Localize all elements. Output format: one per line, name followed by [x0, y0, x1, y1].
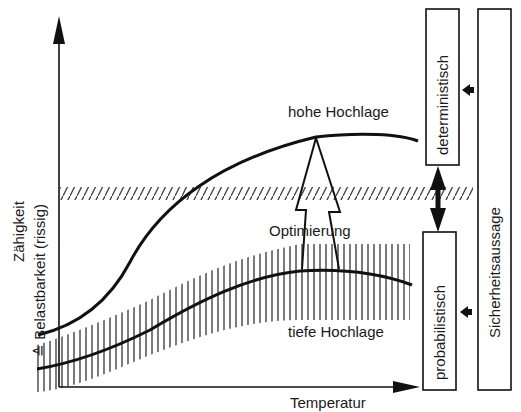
- optimization-arrow-icon: [296, 138, 340, 269]
- box-safety-statement-label: Sicherheitsaussage: [486, 207, 503, 338]
- label-low-upper-shelf: tiefe Hochlage: [288, 323, 384, 340]
- label-optimization: Optimierung: [269, 222, 351, 239]
- hatched-band-upper: [60, 187, 473, 200]
- x-axis: [59, 381, 420, 393]
- arrow-left-icon-upper: [462, 84, 470, 96]
- y-axis-label-line2: ≙ Belastbarkeit (rissig): [31, 204, 48, 357]
- y-axis-label-line1: Zähigkeit: [10, 200, 27, 262]
- diagram-canvas: Zähigkeit ≙ Belastbarkeit (rissig) Tempe…: [0, 0, 521, 412]
- box-probabilistic-label: probabilistisch: [431, 285, 448, 380]
- label-high-upper-shelf: hohe Hochlage: [288, 103, 389, 120]
- hatched-band-lower: [38, 230, 410, 395]
- box-deterministic-label: deterministisch: [434, 55, 451, 155]
- x-axis-label: Temperatur: [290, 394, 366, 411]
- curve-high-upper-shelf: [38, 134, 418, 335]
- arrow-left-icon-lower: [460, 306, 468, 318]
